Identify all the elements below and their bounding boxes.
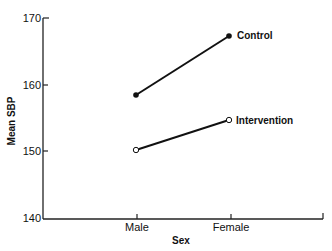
- y-axis-title: Mean SBP: [6, 96, 17, 145]
- intervention-line: [136, 120, 229, 150]
- intervention-label: Intervention: [236, 115, 293, 126]
- y-tick-label: 170: [23, 12, 41, 24]
- x-tick-label-male: Male: [125, 221, 149, 233]
- y-tick-label: 150: [23, 145, 41, 157]
- y-ticks: 140 150 160 170: [23, 12, 49, 224]
- control-point-male: [133, 92, 139, 98]
- intervention-point-male: [133, 147, 138, 152]
- y-tick-label: 160: [23, 79, 41, 91]
- x-axis-title: Sex: [172, 235, 190, 246]
- interaction-line-chart: 140 150 160 170 Male Female Sex Mean SBP…: [0, 0, 332, 251]
- control-point-female: [226, 33, 232, 39]
- series-intervention: Intervention: [133, 115, 293, 153]
- control-label: Control: [237, 30, 273, 41]
- x-ticks: Male Female: [125, 213, 323, 233]
- control-line: [136, 36, 229, 95]
- x-tick-label-female: Female: [213, 221, 250, 233]
- y-tick-label: 140: [23, 212, 41, 224]
- series-control: Control: [133, 30, 273, 98]
- intervention-point-female: [226, 117, 231, 122]
